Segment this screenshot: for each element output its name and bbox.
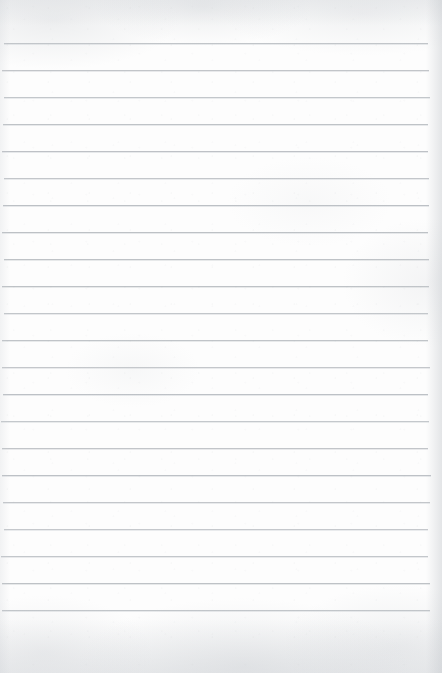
scanned-page: [0, 0, 442, 673]
writing-area[interactable]: [0, 0, 442, 673]
